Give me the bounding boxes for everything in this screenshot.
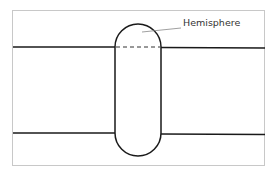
bottom-line-right [161, 134, 265, 135]
hemisphere-label: Hemisphere [183, 17, 240, 28]
capsule-outline [115, 24, 161, 156]
hemisphere-leader [142, 28, 181, 32]
top-line-right [161, 48, 265, 49]
